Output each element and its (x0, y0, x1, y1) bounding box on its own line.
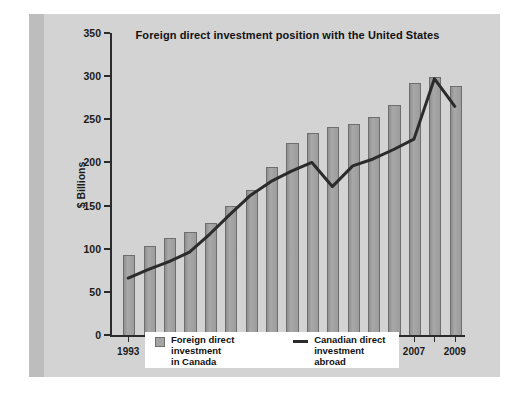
y-tick-label: 350 (83, 27, 101, 39)
x-tick-label: 2009 (444, 346, 466, 357)
legend-entry-bars: Foreign direct investment in Canada (155, 334, 275, 367)
y-tick-label: 0 (95, 329, 101, 341)
legend-entry-line: Canadian direct investment abroad (293, 334, 389, 367)
legend-label-bars: Foreign direct investment in Canada (171, 334, 275, 367)
chart-figure: Foreign direct investment position with … (29, 14, 500, 377)
x-tick (455, 337, 456, 342)
x-tick (128, 337, 129, 342)
line-series-svg (110, 33, 465, 337)
y-tick-label: 100 (83, 243, 101, 255)
legend-label-line: Canadian direct investment abroad (314, 334, 389, 367)
y-tick-label: 50 (89, 286, 101, 298)
square-swatch-icon (155, 337, 165, 347)
line-swatch-icon (293, 340, 308, 343)
y-tick-label: 250 (83, 113, 101, 125)
line-series-path (128, 79, 455, 278)
plot-area: Foreign direct investment position with … (110, 33, 465, 337)
x-tick-label: 2007 (403, 346, 425, 357)
y-tick-label: 300 (83, 70, 101, 82)
chart-legend: Foreign direct investment in Canada Cana… (145, 332, 399, 368)
y-tick-label: 200 (83, 156, 101, 168)
y-tick-label: 150 (83, 200, 101, 212)
figure-left-band (29, 14, 44, 377)
x-tick (434, 337, 435, 342)
x-tick-label: 1993 (117, 346, 139, 357)
x-tick (414, 337, 415, 342)
